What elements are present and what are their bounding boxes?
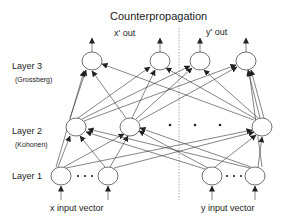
layer2-node	[252, 118, 272, 136]
layer1-node	[51, 167, 71, 185]
diagram-title: Counterpropagation	[110, 10, 207, 22]
layer3-sublabel: (Grossberg)	[15, 76, 52, 83]
layer3-node	[236, 52, 256, 70]
layer1-node	[245, 167, 265, 185]
counterpropagation-diagram: Counterpropagation x' out y' out Layer 3…	[0, 0, 281, 223]
x-out-label: x' out	[114, 28, 135, 38]
network-graph	[0, 0, 281, 223]
layer1-node	[98, 167, 118, 185]
layer3-node	[82, 52, 102, 70]
layer1-label: Layer 1	[12, 171, 42, 181]
layer1-node	[202, 167, 222, 185]
layer2-node	[66, 118, 86, 136]
layer2-label: Layer 2	[12, 126, 42, 136]
layer2-node	[120, 118, 140, 136]
layer3-node	[150, 52, 170, 70]
layer3-label: Layer 3	[12, 61, 42, 71]
y-input-label: y input vector	[201, 203, 255, 213]
y-out-label: y' out	[206, 27, 227, 37]
layer2-sublabel: (Kohonen)	[15, 141, 48, 148]
layer3-node	[190, 52, 210, 70]
x-input-label: x input vector	[50, 203, 104, 213]
